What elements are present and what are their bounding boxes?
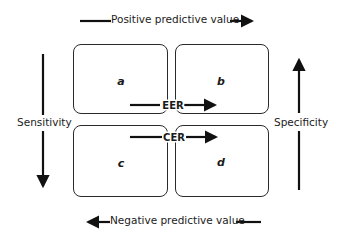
sensitivity-label: Sensitivity	[17, 116, 72, 128]
specificity-label: Specificity	[274, 116, 328, 128]
eer-label: EER	[161, 100, 184, 111]
npv-label: Negative predictive value	[110, 214, 245, 226]
cer-label: CER	[162, 132, 186, 143]
ppv-label: Positive predictive value	[111, 13, 239, 25]
